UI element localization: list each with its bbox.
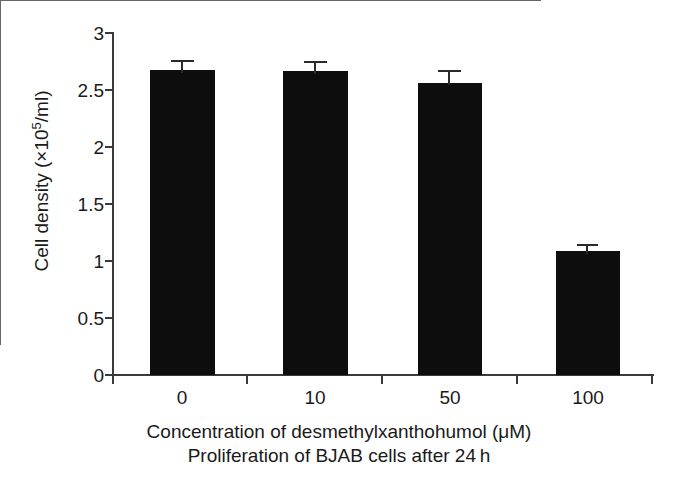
error-bar-stem-2 <box>448 71 450 85</box>
bar-1 <box>283 71 348 375</box>
x-axis-label: Concentration of desmethylxanthohumol (μ… <box>0 420 678 443</box>
x-tick-label-1: 10 <box>275 388 355 408</box>
x-tick-mark-3 <box>516 375 518 384</box>
bar-0 <box>150 70 215 375</box>
y-tick-label-0: 0 <box>60 366 104 385</box>
y-tick-0.5: 0.5 <box>52 309 104 328</box>
y-tick-label-0.5: 0.5 <box>60 309 104 328</box>
x-tick-label-2: 50 <box>410 388 490 408</box>
bar-3 <box>556 251 620 375</box>
error-bar-stem-0 <box>181 61 183 73</box>
y-tick-2: 2 <box>52 138 104 157</box>
x-tick-mark-0 <box>112 375 114 384</box>
y-axis-line <box>112 32 114 377</box>
y-tick-2.5: 2.5 <box>52 81 104 100</box>
error-bar-cap-3 <box>577 244 598 246</box>
y-tick-3: 3 <box>52 24 104 43</box>
figure-caption: Proliferation of BJAB cells after 24 h <box>0 444 678 467</box>
plot-border-right <box>0 1 1 345</box>
y-tick-1: 1 <box>52 252 104 271</box>
error-bar-stem-3 <box>586 245 588 254</box>
x-tick-mark-2 <box>381 375 383 384</box>
error-bar-stem-1 <box>314 62 316 74</box>
y-axis-label-exponent: 5 <box>29 122 44 129</box>
y-tick-label-2: 2 <box>60 138 104 157</box>
bar-2 <box>418 83 482 375</box>
x-tick-label-3: 100 <box>548 388 628 408</box>
x-tick-mark-4 <box>651 375 653 384</box>
y-tick-label-1: 1 <box>60 252 104 271</box>
x-tick-mark-1 <box>246 375 248 384</box>
plot-border-top <box>0 0 541 1</box>
y-tick-label-1.5: 1.5 <box>60 195 104 214</box>
y-tick-1.5: 1.5 <box>52 195 104 214</box>
y-tick-label-3: 3 <box>60 24 104 43</box>
y-tick-0: 0 <box>52 366 104 385</box>
error-bar-cap-2 <box>438 70 461 72</box>
y-tick-label-2.5: 2.5 <box>60 81 104 100</box>
y-axis-label-tail: /ml) <box>31 91 52 123</box>
figure-bar-chart: Cell density (×105/ml) 3 2.5 2 1.5 1 0.5… <box>0 0 678 482</box>
x-tick-label-0: 0 <box>142 388 222 408</box>
y-axis-label: Cell density (×105/ml) <box>31 31 53 331</box>
error-bar-cap-1 <box>304 61 327 63</box>
y-axis-label-main: Cell density (×10 <box>31 129 52 271</box>
error-bar-cap-0 <box>171 60 194 62</box>
